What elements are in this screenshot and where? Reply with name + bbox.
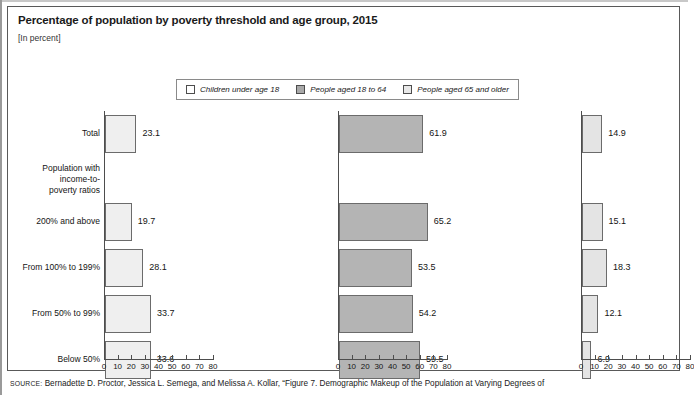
- bar-row: 65.2: [338, 203, 450, 241]
- bar-row: 28.1: [104, 249, 216, 287]
- axis-tick: [338, 355, 339, 360]
- axis-tick: [118, 355, 119, 360]
- bar: [105, 341, 151, 379]
- axis-tick: [186, 355, 187, 360]
- axis-tick: [690, 355, 691, 360]
- legend-label-adults: People aged 18 to 64: [310, 85, 386, 94]
- bar-row: 19.7: [104, 203, 216, 241]
- bar-value-label: 12.1: [604, 308, 622, 318]
- bar: [582, 295, 598, 333]
- bar: [105, 115, 136, 153]
- chart-legend: Children under age 18 People aged 18 to …: [176, 79, 519, 100]
- axis-tick: [159, 355, 160, 360]
- axis-tick-label: 40: [154, 362, 163, 371]
- legend-label-seniors: People aged 65 and older: [417, 85, 509, 94]
- axis-tick: [581, 355, 582, 360]
- bar: [339, 115, 423, 153]
- category-label-line: Population with: [16, 163, 100, 174]
- chart-subtitle: [In percent]: [18, 33, 61, 43]
- chart-title: Percentage of population by poverty thre…: [18, 14, 378, 26]
- panel-seniors-bars: 14.915.118.312.16.9: [581, 111, 693, 359]
- bar-row: 23.1: [104, 115, 216, 153]
- axis-tick: [649, 355, 650, 360]
- panel-children-bars: 23.119.728.133.733.6: [104, 111, 216, 359]
- page-left-edge: [0, 0, 2, 395]
- axis-tick-label: 80: [686, 362, 694, 371]
- axis-tick-label: 10: [590, 362, 599, 371]
- bar-value-label: 33.7: [157, 308, 175, 318]
- axis-tick: [379, 355, 380, 360]
- bar-value-label: 18.3: [613, 262, 631, 272]
- axis-tick-label: 70: [429, 362, 438, 371]
- axis-tick: [433, 355, 434, 360]
- category-axis-labels: TotalPopulation withincome-to-poverty ra…: [16, 111, 100, 363]
- axis-tick: [447, 355, 448, 360]
- source-note: SOURCE: Bernadette D. Proctor, Jessica L…: [10, 379, 680, 388]
- axis-tick-label: 0: [102, 362, 106, 371]
- legend-label-children: Children under age 18: [200, 85, 279, 94]
- bar: [582, 115, 602, 153]
- axis-tick: [172, 355, 173, 360]
- axis-tick-label: 60: [658, 362, 667, 371]
- axis-tick-label: 0: [336, 362, 340, 371]
- category-label-line: From 100% to 199%: [16, 262, 100, 273]
- axis-tick-label: 10: [113, 362, 122, 371]
- axis-tick: [199, 355, 200, 360]
- axis-tick-label: 80: [209, 362, 218, 371]
- axis-tick: [213, 355, 214, 360]
- axis-tick-label: 20: [604, 362, 613, 371]
- bar-value-label: 15.1: [609, 216, 627, 226]
- axis-tick: [145, 355, 146, 360]
- axis-tick-label: 40: [388, 362, 397, 371]
- axis-tick: [365, 355, 366, 360]
- category-label: 200% and above: [16, 216, 100, 227]
- axis-tick-label: 70: [672, 362, 681, 371]
- axis-tick: [636, 355, 637, 360]
- axis-tick: [406, 355, 407, 360]
- bar: [105, 203, 132, 241]
- legend-item-adults: People aged 18 to 64: [296, 85, 386, 94]
- bar-row: 53.5: [338, 249, 450, 287]
- bar-value-label: 54.2: [419, 308, 437, 318]
- bar-row: 33.7: [104, 295, 216, 333]
- bar-row: 33.6: [104, 341, 216, 379]
- axis-tick: [676, 355, 677, 360]
- category-label: From 50% to 99%: [16, 308, 100, 319]
- category-label-line: 200% and above: [16, 216, 100, 227]
- bar-value-label: 14.9: [608, 128, 626, 138]
- category-label-line: poverty ratios: [16, 185, 100, 196]
- category-label-line: income-to-: [16, 174, 100, 185]
- axis-tick-label: 70: [195, 362, 204, 371]
- legend-swatch-adults-icon: [296, 85, 305, 94]
- panel-adults-bars: 61.965.253.554.259.5: [338, 111, 450, 359]
- legend-item-seniors: People aged 65 and older: [403, 85, 509, 94]
- source-label: SOURCE:: [10, 380, 42, 387]
- bar-row: 59.5: [338, 341, 450, 379]
- axis-tick-label: 60: [181, 362, 190, 371]
- axis-tick: [393, 355, 394, 360]
- category-label: From 100% to 199%: [16, 262, 100, 273]
- axis-tick-label: 10: [347, 362, 356, 371]
- bar-row: 12.1: [581, 295, 693, 333]
- bar: [339, 249, 412, 287]
- bar-value-label: 19.7: [138, 216, 156, 226]
- axis-tick: [595, 355, 596, 360]
- panel-people-65-and-older: 14.915.118.312.16.9 01020304050607080: [581, 111, 693, 363]
- category-label-line: From 50% to 99%: [16, 308, 100, 319]
- bar-value-label: 23.1: [142, 128, 160, 138]
- bar-row: 6.9: [581, 341, 693, 379]
- bar-value-label: 53.5: [418, 262, 436, 272]
- axis-tick: [420, 355, 421, 360]
- axis-tick-label: 30: [374, 362, 383, 371]
- axis-tick-label: 30: [617, 362, 626, 371]
- panel-people-18-to-64: 61.965.253.554.259.5 01020304050607080: [338, 111, 450, 363]
- axis-tick-label: 50: [402, 362, 411, 371]
- bar: [105, 249, 143, 287]
- axis-tick: [622, 355, 623, 360]
- axis-tick-label: 40: [631, 362, 640, 371]
- axis-tick: [131, 355, 132, 360]
- bar: [582, 341, 591, 379]
- category-label-line: Below 50%: [16, 354, 100, 365]
- legend-swatch-seniors-icon: [403, 85, 412, 94]
- category-label: Below 50%: [16, 354, 100, 365]
